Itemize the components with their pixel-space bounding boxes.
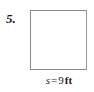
side-unit: ft <box>64 74 72 86</box>
geometry-figure: 5. s=9ft <box>0 0 94 92</box>
problem-number: 5. <box>6 12 16 26</box>
side-length-label: s=9ft <box>30 74 88 87</box>
side-value: 9 <box>58 74 64 86</box>
square-shape <box>30 10 87 70</box>
